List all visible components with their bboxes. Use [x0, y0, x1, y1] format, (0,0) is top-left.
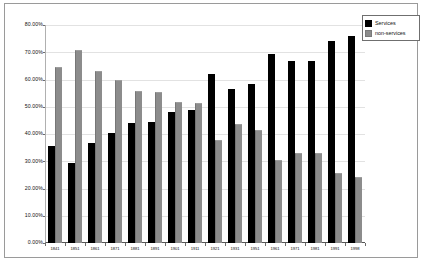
- bar-services: [68, 163, 75, 243]
- bar-group: [285, 25, 305, 243]
- bar-non-services: [115, 80, 122, 243]
- bar-services: [328, 41, 335, 243]
- x-axis-tick-label: 1951: [245, 246, 265, 251]
- x-axis-tick-label: 1841: [45, 246, 65, 251]
- x-axis-tick-label: 1861: [85, 246, 105, 251]
- bar-group: [185, 25, 205, 243]
- bar-non-services: [235, 124, 242, 243]
- legend-item-non-services: non-services: [365, 28, 417, 38]
- bar-non-services: [255, 130, 262, 243]
- y-axis-tick-label: 20.00%: [7, 186, 43, 191]
- bar-group: [325, 25, 345, 243]
- bar-services: [128, 123, 135, 243]
- y-axis-tick-label: 80.00%: [7, 22, 43, 27]
- x-axis-tick-label: 1921: [205, 246, 225, 251]
- bar-services: [268, 54, 275, 243]
- y-axis-tick-label: 70.00%: [7, 50, 43, 55]
- legend-label-non-services: non-services: [375, 30, 406, 36]
- chart-legend: Services non-services: [362, 15, 420, 41]
- bar-non-services: [75, 50, 82, 243]
- y-axis-tick-label: 40.00%: [7, 131, 43, 136]
- y-axis-tick-label: 50.00%: [7, 104, 43, 109]
- bar-group: [245, 25, 265, 243]
- bar-group: [265, 25, 285, 243]
- legend-swatch-services-icon: [365, 20, 372, 27]
- bar-group: [105, 25, 125, 243]
- bar-group: [145, 25, 165, 243]
- bar-services: [208, 74, 215, 243]
- x-axis-tick-label: 1901: [165, 246, 185, 251]
- bar-group: [345, 25, 365, 243]
- bar-group: [305, 25, 325, 243]
- bar-non-services: [195, 103, 202, 243]
- bar-services: [168, 112, 175, 243]
- bar-non-services: [335, 173, 342, 243]
- y-axis-tick-label: 10.00%: [7, 213, 43, 218]
- bar-non-services: [155, 92, 162, 244]
- bar-group: [65, 25, 85, 243]
- y-axis-tick-label: 0.00%: [7, 240, 43, 245]
- bar-group: [225, 25, 245, 243]
- bar-non-services: [355, 177, 362, 243]
- chart-frame: 80.00%70.00%60.00%50.00%40.00%30.00%20.0…: [4, 3, 418, 258]
- bar-group: [205, 25, 225, 243]
- y-axis: 80.00%70.00%60.00%50.00%40.00%30.00%20.0…: [5, 25, 43, 243]
- legend-label-services: Services: [375, 20, 396, 26]
- bar-non-services: [315, 153, 322, 243]
- x-axis-tick-label: 1851: [65, 246, 85, 251]
- x-axis-tick-label: 1891: [145, 246, 165, 251]
- bar-non-services: [295, 153, 302, 243]
- legend-item-services: Services: [365, 18, 417, 28]
- bar-services: [228, 89, 235, 243]
- bar-services: [248, 84, 255, 243]
- bar-non-services: [215, 140, 222, 243]
- bar-group: [165, 25, 185, 243]
- x-axis-tick-label: 1971: [285, 246, 305, 251]
- bar-non-services: [55, 67, 62, 243]
- bar-non-services: [175, 102, 182, 243]
- y-axis-tick-label: 30.00%: [7, 159, 43, 164]
- bar-services: [308, 61, 315, 243]
- x-axis: 1841185118611871188118911901191119211931…: [45, 243, 365, 263]
- x-axis-tick-label: 1911: [185, 246, 205, 251]
- x-axis-tick-label: 1961: [265, 246, 285, 251]
- x-axis-tick-label: 1871: [105, 246, 125, 251]
- y-axis-tick-label: 60.00%: [7, 77, 43, 82]
- bar-services: [348, 36, 355, 243]
- bar-services: [148, 122, 155, 243]
- x-axis-tick-label: 1981: [305, 246, 325, 251]
- x-axis-tick-label: 1991: [325, 246, 345, 251]
- x-axis-tick-mark: [365, 243, 366, 246]
- bar-group: [125, 25, 145, 243]
- bar-non-services: [135, 91, 142, 243]
- bar-services: [88, 143, 95, 243]
- bar-services: [48, 146, 55, 243]
- bar-group: [45, 25, 65, 243]
- bar-services: [108, 133, 115, 243]
- x-axis-tick-label: 1881: [125, 246, 145, 251]
- x-axis-tick-label: 1931: [225, 246, 245, 251]
- chart-screenshot: 80.00%70.00%60.00%50.00%40.00%30.00%20.0…: [0, 0, 423, 263]
- bar-non-services: [275, 160, 282, 243]
- bar-services: [288, 61, 295, 243]
- x-axis-tick-label: 1998: [345, 246, 365, 251]
- legend-swatch-non-services-icon: [365, 30, 372, 37]
- bar-services: [188, 110, 195, 243]
- bars-layer: [45, 25, 365, 243]
- bar-non-services: [95, 71, 102, 243]
- bar-group: [85, 25, 105, 243]
